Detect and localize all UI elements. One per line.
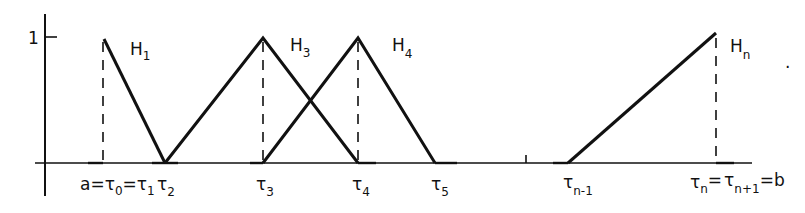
trailing-period: . bbox=[785, 52, 790, 72]
knot-label-tau-n-minus-1: τn-1 bbox=[563, 172, 593, 198]
knot-label-tau-n-b: τn=τn+1=b bbox=[690, 170, 785, 196]
knot-label-a-tau0-tau1: a=τ0=τ1 bbox=[80, 174, 155, 198]
knot-label-tau4: τ4 bbox=[352, 174, 370, 199]
label-hn: Hn bbox=[730, 36, 750, 62]
h2-curve bbox=[165, 38, 358, 163]
label-h3: H3 bbox=[290, 35, 310, 60]
knot-label-tau5: τ5 bbox=[431, 174, 449, 199]
knot-label-tau2: τ2 bbox=[157, 174, 175, 199]
y-tick-label: 1 bbox=[28, 28, 39, 48]
hat-functions-diagram: H1 H3 H4 Hn 1 a=τ0=τ1 τ2 τ3 τ4 τ5 τn-1 τ… bbox=[0, 0, 805, 213]
label-h1: H1 bbox=[130, 39, 150, 63]
label-h4: H4 bbox=[392, 35, 412, 61]
knot-label-tau3: τ3 bbox=[256, 174, 274, 199]
hn-curve bbox=[568, 33, 716, 163]
